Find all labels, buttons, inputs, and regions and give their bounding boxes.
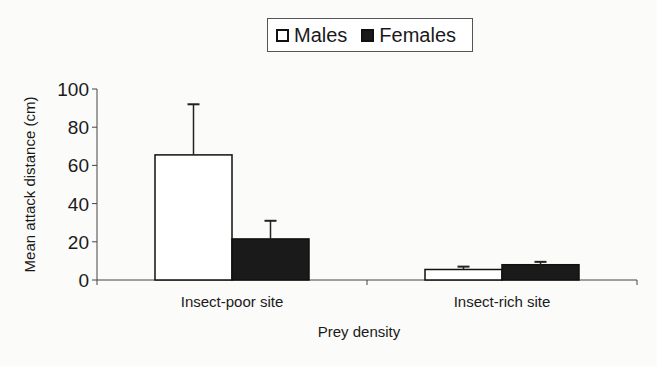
bar-males [155, 155, 232, 280]
category-label: Insect-rich site [454, 293, 551, 310]
bar-females [232, 239, 309, 280]
y-tick-label: 80 [68, 117, 89, 138]
category-label: Insect-poor site [181, 293, 284, 310]
x-axis-title: Prey density [318, 323, 401, 340]
y-tick-label: 40 [68, 194, 89, 215]
y-axis-title: Mean attack distance (cm) [21, 97, 38, 273]
bar-males [425, 269, 502, 280]
y-tick-label: 60 [68, 155, 89, 176]
bar-chart: 020406080100Insect-poor siteInsect-rich … [0, 0, 657, 366]
y-tick-label: 20 [68, 232, 89, 253]
y-tick-label: 100 [57, 79, 89, 100]
y-tick-label: 0 [78, 270, 89, 291]
bar-females [502, 265, 579, 280]
